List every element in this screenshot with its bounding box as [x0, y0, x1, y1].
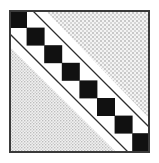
compony-square-5 — [97, 98, 115, 116]
heraldic-bend-illustration: Heraldic bend compony Square escutcheon … — [0, 0, 159, 163]
compony-square-7 — [132, 133, 150, 151]
compony-square-4 — [79, 80, 97, 98]
compony-square-0 — [9, 10, 27, 28]
heraldic-figure: Heraldic bend compony Square escutcheon … — [0, 0, 159, 163]
compony-square-2 — [44, 45, 62, 63]
compony-square-1 — [27, 28, 45, 46]
compony-square-6 — [115, 116, 133, 134]
compony-square-3 — [62, 63, 80, 81]
